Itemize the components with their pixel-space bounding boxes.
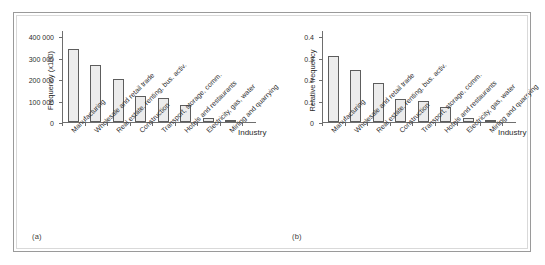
y-axis-line-b (322, 31, 323, 123)
x-tick-1-4 (412, 122, 413, 126)
y-tick-label-0-1: 100 000 (29, 98, 54, 105)
y-tick-label-1-4: 0.4 (304, 34, 314, 41)
y-axis-line-a (62, 31, 63, 123)
figure-screenshot: Frequency (x100) 0100 000200 000300 0004… (0, 0, 545, 265)
x-tick-1-1 (345, 122, 346, 126)
bar-0-1 (90, 65, 101, 122)
panel-caption-a: (a) (32, 232, 42, 241)
y-tick-0-1: 100 000 (59, 102, 63, 103)
bar-0-4 (158, 98, 169, 122)
y-tick-0-3: 300 000 (59, 59, 63, 60)
bar-1-1 (350, 70, 361, 122)
bar-1-6 (463, 118, 474, 122)
x-tick-0-0 (62, 122, 63, 126)
bar-1-7 (485, 120, 496, 122)
plot-area-b: 00.10.20.30.4 (322, 37, 502, 123)
x-axis-line-b (322, 122, 516, 123)
x-axis-title-b: Industry (498, 128, 526, 137)
x-tick-1-0 (322, 122, 323, 126)
panel-caption-b: (b) (292, 232, 302, 241)
bar-1-4 (418, 101, 429, 123)
x-tick-0-1 (85, 122, 86, 126)
bar-1-3 (395, 99, 406, 122)
x-tick-0-4 (152, 122, 153, 126)
y-tick-1-2: 0.2 (319, 80, 323, 81)
y-tick-1-3: 0.3 (319, 59, 323, 60)
x-tick-0-7 (220, 122, 221, 126)
chart-panel-a: Frequency (x100) 0100 000200 000300 0004… (16, 13, 275, 251)
plot-area-a: 0100 000200 000300 000400 000 (62, 37, 242, 123)
x-tick-1-end (502, 122, 503, 126)
x-tick-0-end (242, 122, 243, 126)
x-tick-1-5 (435, 122, 436, 126)
y-tick-label-1-3: 0.3 (304, 55, 314, 62)
y-tick-label-0-4: 400 000 (29, 34, 54, 41)
bar-1-2 (373, 83, 384, 122)
x-tick-1-7 (480, 122, 481, 126)
bar-0-7 (225, 120, 236, 122)
bar-1-5 (440, 107, 451, 122)
y-tick-label-0-0: 0 (50, 120, 54, 127)
y-tick-1-4: 0.4 (319, 37, 323, 38)
bar-0-5 (180, 105, 191, 122)
y-tick-0-2: 200 000 (59, 80, 63, 81)
x-tick-0-6 (197, 122, 198, 126)
x-tick-0-5 (175, 122, 176, 126)
y-tick-label-1-2: 0.2 (304, 77, 314, 84)
y-tick-label-1-1: 0.1 (304, 98, 314, 105)
x-tick-1-2 (367, 122, 368, 126)
chart-panel-b: Relative frequency 00.10.20.30.4 Industr… (276, 13, 535, 251)
y-tick-0-4: 400 000 (59, 37, 63, 38)
bar-0-3 (135, 96, 146, 122)
figure-frame: Frequency (x100) 0100 000200 000300 0004… (13, 12, 531, 252)
x-tick-1-6 (457, 122, 458, 126)
bar-1-0 (328, 56, 339, 122)
y-tick-label-1-0: 0 (310, 120, 314, 127)
bar-0-6 (203, 118, 214, 122)
y-tick-1-1: 0.1 (319, 102, 323, 103)
y-tick-label-0-3: 300 000 (29, 55, 54, 62)
y-tick-label-0-2: 200 000 (29, 77, 54, 84)
x-axis-title-a: Industry (238, 128, 266, 137)
x-axis-line-a (62, 122, 256, 123)
bar-0-0 (68, 49, 79, 122)
x-tick-0-2 (107, 122, 108, 126)
x-tick-1-3 (390, 122, 391, 126)
x-tick-0-3 (130, 122, 131, 126)
bar-0-2 (113, 79, 124, 122)
